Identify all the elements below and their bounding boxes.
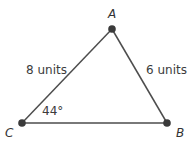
- side-ca-length-label: 8 units: [26, 64, 67, 76]
- vertex-b-label: B: [176, 127, 184, 139]
- side-ab-length-label: 6 units: [146, 64, 187, 76]
- vertex-b-dot: [163, 119, 171, 127]
- vertex-c-dot: [18, 119, 26, 127]
- angle-c-label: 44°: [42, 105, 63, 117]
- vertex-a-dot: [108, 25, 116, 33]
- triangle-diagram: A C B 8 units 6 units 44°: [0, 0, 191, 142]
- vertex-c-label: C: [5, 127, 13, 139]
- vertex-a-label: A: [108, 8, 116, 20]
